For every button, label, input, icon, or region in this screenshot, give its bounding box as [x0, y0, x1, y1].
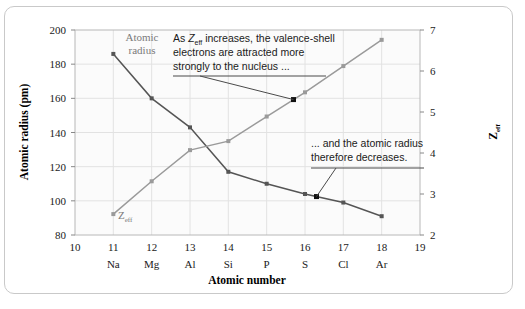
data-point-marker [150, 179, 154, 183]
x-axis-element-label: Na [107, 258, 120, 270]
x-axis-title: Atomic number [208, 274, 286, 286]
y-axis-left-tick-label: 100 [50, 195, 67, 207]
data-point-marker [226, 139, 230, 143]
x-axis-element-label: Si [224, 258, 233, 270]
y-axis-left-tick-label: 140 [50, 127, 67, 139]
y-axis-left-tick-label: 180 [50, 58, 67, 70]
y-axis-left-tick-labels: 80100120140160180200 [50, 24, 76, 241]
x-axis-tick-label: 18 [376, 241, 388, 253]
x-axis-element-label: Cl [338, 258, 348, 270]
data-point-marker [341, 201, 345, 205]
x-axis-element-labels: NaMgAlSiPSClAr [107, 258, 388, 270]
series-label-atomic-radius-line2: radius [129, 44, 156, 56]
data-point-marker [150, 96, 154, 100]
data-point-marker [341, 64, 345, 68]
chart-container: 80100120140160180200 234567 101112131415… [0, 0, 525, 309]
data-point-marker [380, 214, 384, 218]
x-axis-tick-label: 10 [70, 241, 82, 253]
y-axis-left-tick-label: 160 [50, 92, 67, 104]
y-axis-right-tick-label: 6 [430, 65, 436, 77]
y-axis-right-tick-label: 4 [430, 147, 436, 159]
x-axis-element-label: Mg [144, 258, 160, 270]
y-axis-right-tick-labels: 234567 [420, 24, 436, 241]
series-label-atomic-radius-line1: Atomic [126, 31, 159, 43]
x-axis-tick-label: 13 [185, 241, 197, 253]
y-axis-right-tick-label: 2 [430, 229, 436, 241]
data-point-marker [111, 52, 115, 56]
zeff-annotation-line-3: strongly to the nucleus ... [173, 60, 290, 72]
x-axis-tick-labels: 10111213141516171819 [70, 241, 427, 253]
data-point-marker [188, 125, 192, 129]
x-axis-element-label: P [264, 258, 270, 270]
y-axis-left-tick-label: 120 [50, 161, 67, 173]
y-axis-right-title: Zeff [487, 124, 502, 140]
data-point-marker [111, 212, 115, 216]
chart-svg: 80100120140160180200 234567 101112131415… [0, 0, 525, 309]
x-axis-tick-label: 19 [415, 241, 427, 253]
data-point-marker [226, 170, 230, 174]
data-point-marker [303, 192, 307, 196]
y-axis-right-tick-label: 5 [430, 106, 436, 118]
y-axis-right-tick-label: 3 [430, 188, 436, 200]
x-axis-tick-label: 15 [261, 241, 273, 253]
data-point-marker [188, 148, 192, 152]
x-axis-tick-label: 11 [108, 241, 119, 253]
y-axis-left-tick-label: 80 [55, 229, 67, 241]
x-axis-element-label: S [302, 258, 308, 270]
data-point-marker [380, 38, 384, 42]
y-axis-right-tick-label: 7 [430, 24, 436, 36]
data-point-marker [303, 90, 307, 94]
x-axis-tick-label: 17 [338, 241, 350, 253]
y-axis-left-tick-label: 200 [50, 24, 67, 36]
data-point-marker [265, 115, 269, 119]
x-axis-element-label: Al [185, 258, 196, 270]
x-axis-tick-label: 14 [223, 241, 235, 253]
radius-annotation-line-1: ... and the atomic radius [311, 137, 423, 149]
x-axis-element-label: Ar [376, 258, 388, 270]
x-axis-tick-label: 16 [300, 241, 312, 253]
data-point-marker [265, 182, 269, 186]
y-axis-left-title: Atomic radius (pm) [18, 84, 31, 181]
x-axis-tick-label: 12 [146, 241, 157, 253]
radius-annotation-line-2: therefore decreases. [311, 151, 407, 163]
zeff-annotation-line-2: electrons are attracted more [173, 46, 304, 58]
